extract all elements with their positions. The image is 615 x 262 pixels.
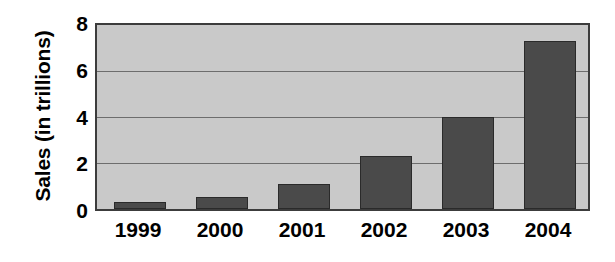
bar-2002 [360,156,412,209]
x-axis-tick-labels: 1999 2000 2001 2002 2003 2004 [95,216,590,250]
bar-2001 [278,184,330,209]
bar-chart-figure: Sales (in trillions) 8 6 4 2 0 1999 2000… [0,0,615,262]
bars-layer [97,25,588,209]
x-tick-label-2001: 2001 [259,216,345,243]
y-tick-label-0: 0 [62,200,88,221]
x-tick-label-2003: 2003 [423,216,509,243]
x-tick-label-2000: 2000 [177,216,263,243]
x-tick-label-2002: 2002 [341,216,427,243]
y-axis-title: Sales (in trillions) [31,1,55,231]
y-axis-tick-labels: 8 6 4 2 0 [58,0,88,262]
plot-area [95,23,590,211]
x-tick-label-2004: 2004 [505,216,591,243]
y-tick-label-4: 4 [62,107,88,128]
y-tick-label-2: 2 [62,153,88,174]
x-tick-label-1999: 1999 [95,216,181,243]
y-tick-label-6: 6 [62,60,88,81]
bar-2000 [196,197,248,209]
bar-2003 [442,117,494,209]
y-tick-label-8: 8 [62,13,88,34]
bar-1999 [114,202,166,209]
bar-2004 [524,41,576,209]
